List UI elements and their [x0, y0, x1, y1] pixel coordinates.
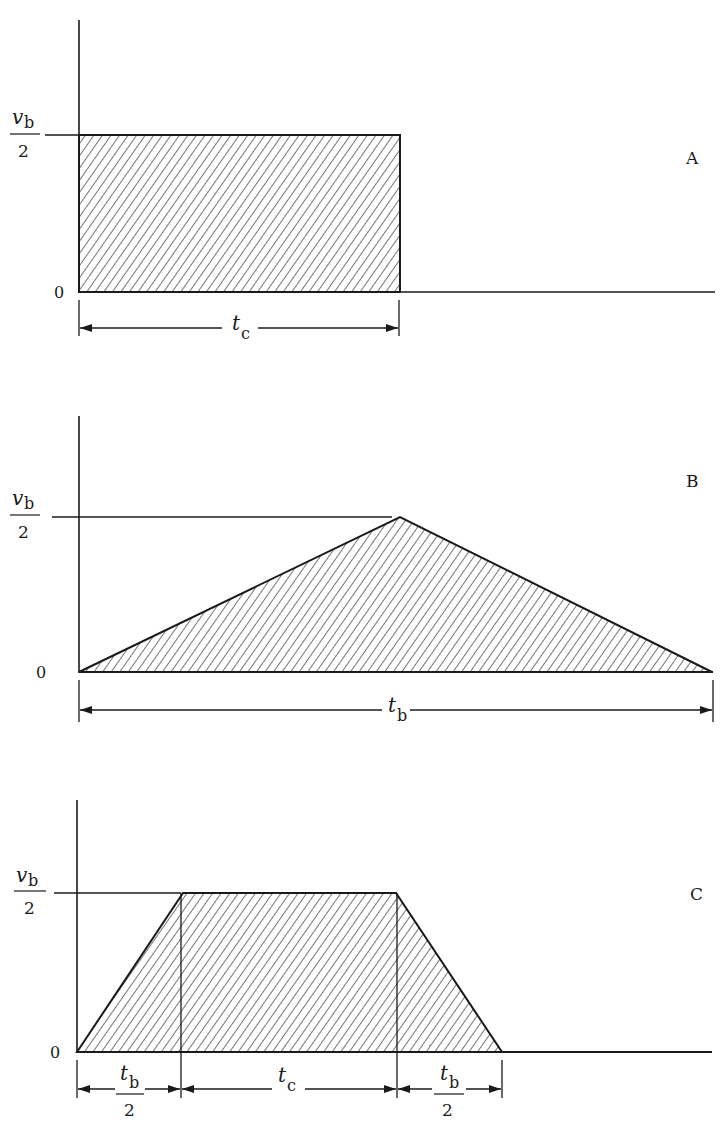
- y-top-label-a: v b 2: [10, 105, 40, 161]
- dimension-tb-half-right-c: t b 2: [398, 1061, 501, 1120]
- dimension-tc-c: t c: [182, 1063, 396, 1095]
- figure-canvas: v b 2 0 A t c v b 2 0 B: [0, 0, 723, 1128]
- svg-text:t: t: [120, 1061, 129, 1085]
- svg-text:b: b: [397, 706, 407, 725]
- svg-text:2: 2: [18, 522, 29, 542]
- shaded-triangle-b: [79, 517, 712, 672]
- svg-text:b: b: [24, 494, 34, 513]
- panel-b: v b 2 0 B t b: [10, 416, 713, 725]
- svg-text:2: 2: [18, 141, 29, 161]
- dimension-tb-half-left-c: t b 2: [78, 1061, 180, 1120]
- svg-text:t: t: [232, 311, 241, 335]
- svg-text:v: v: [12, 486, 24, 510]
- svg-text:b: b: [129, 1073, 139, 1092]
- svg-text:c: c: [241, 324, 250, 343]
- svg-text:t: t: [388, 693, 397, 717]
- svg-text:b: b: [449, 1073, 459, 1092]
- y-top-label-c: v b 2: [14, 863, 46, 918]
- shaded-trapezoid-c: [77, 893, 502, 1052]
- svg-text:v: v: [16, 863, 28, 887]
- svg-text:2: 2: [24, 898, 35, 918]
- y-zero-label-c: 0: [50, 1043, 60, 1062]
- panel-label-a: A: [685, 148, 699, 168]
- dimension-tb-b: t b: [79, 680, 713, 725]
- dimension-tc-a: t c: [79, 300, 399, 343]
- svg-text:c: c: [287, 1076, 296, 1095]
- svg-text:2: 2: [442, 1100, 453, 1120]
- y-top-label-b: v b 2: [10, 486, 40, 542]
- svg-text:v: v: [12, 105, 24, 129]
- svg-text:b: b: [28, 871, 38, 890]
- panel-label-c: C: [690, 884, 703, 904]
- y-zero-label-a: 0: [54, 283, 64, 302]
- svg-text:t: t: [278, 1063, 287, 1087]
- svg-text:2: 2: [124, 1100, 135, 1120]
- panel-label-b: B: [686, 471, 699, 491]
- panel-a: v b 2 0 A t c: [10, 20, 715, 343]
- svg-text:b: b: [24, 113, 34, 132]
- svg-text:t: t: [440, 1061, 449, 1085]
- panel-c: v b 2 0 C t b 2 t c t b: [14, 800, 712, 1120]
- shaded-rectangle-a: [79, 135, 400, 292]
- y-zero-label-b: 0: [36, 663, 46, 682]
